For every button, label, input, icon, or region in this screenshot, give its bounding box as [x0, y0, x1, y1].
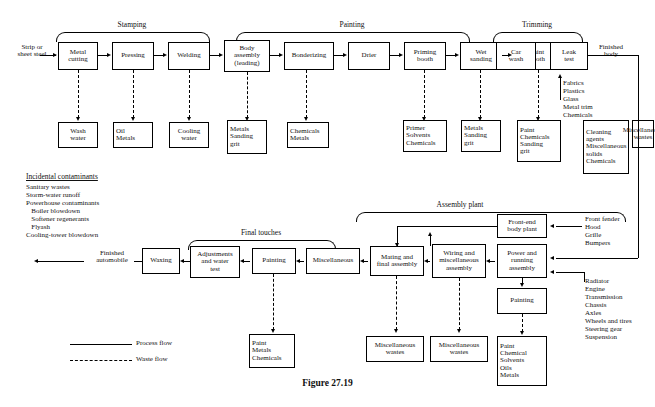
process-body-assembly[interactable]: Bodyassembly(leading) [224, 40, 270, 72]
arrow-misc-painting [296, 259, 300, 263]
waste-drop-6 [424, 70, 425, 118]
legend-waste-line [70, 360, 132, 361]
process-front-end-body-plant[interactable]: Front-endbody plant [497, 214, 547, 238]
waste-arrow-2 [131, 117, 135, 121]
legend-process-line [70, 344, 132, 345]
process-miscellaneous[interactable]: Miscellaneous [306, 248, 360, 274]
parts-front-end-label: Front fender Hood Grille Bumpers [585, 216, 620, 248]
legend-waste-label: Waste flow [136, 355, 168, 363]
arrow-weld-body [219, 53, 223, 57]
waste-drop-5 [306, 70, 307, 118]
arrow-painting-adjust [240, 259, 244, 263]
arrow-adjust-waxing [180, 259, 184, 263]
waste-arrow-5 [304, 117, 308, 121]
process-pressing[interactable]: Pressing [112, 42, 154, 70]
incidental-heading: Incidental contaminants [26, 172, 98, 181]
arrow-power-to-painting [520, 283, 524, 287]
waste-drop-b2 [396, 276, 397, 330]
process-waxing[interactable]: Waxing [142, 248, 180, 274]
arrow-finished-automobile [34, 259, 38, 263]
arrow-mating-up [428, 232, 432, 236]
waste-box-oil-metals[interactable]: OilMetals [113, 122, 153, 148]
process-metal-cutting[interactable]: Metalcutting [58, 42, 98, 70]
arrow-priming-wet [455, 53, 459, 57]
flow-wiring-up [430, 236, 431, 246]
arrow-bond-drier [343, 53, 347, 57]
process-wiring-misc-assembly[interactable]: Wiring andmiscellaneousassembly [432, 244, 486, 278]
waste-arrow-1 [76, 117, 80, 121]
bracket-painting [236, 32, 470, 42]
flow-parts-frontend [556, 226, 582, 227]
arrow-parts-power2 [550, 270, 554, 274]
bracket-stamping [56, 32, 210, 42]
process-painting-assembly[interactable]: Painting [497, 288, 547, 314]
waste-box-wash-water[interactable]: Washwater [58, 122, 98, 148]
process-power-running-assembly[interactable]: Power andrunningassembly [497, 244, 547, 278]
arrow-wet-paint [508, 53, 512, 57]
bracket-trimming-label: Trimming [487, 20, 587, 29]
process-bonderizing[interactable]: Bonderizing [284, 42, 334, 70]
arrow-wiring-mating [424, 259, 428, 263]
process-adjustments-water-test[interactable]: Adjustmentsand watertest [190, 246, 240, 278]
waste-drop-b4 [522, 314, 523, 332]
arrow-power-wiring [486, 259, 490, 263]
waste-drop-b1 [273, 274, 274, 330]
figure-canvas: Stamping Painting Trimming Strip or shee… [0, 0, 655, 407]
waste-drop-2 [133, 70, 134, 118]
bracket-stamping-label: Stamping [82, 20, 182, 29]
materials-feed-line [560, 78, 561, 100]
process-welding[interactable]: Welding [168, 42, 210, 70]
legend-process-label: Process flow [136, 339, 172, 347]
process-car-wash[interactable]: Carwash [496, 42, 536, 70]
waste-arrow-b2 [394, 329, 398, 333]
flow-parts-power [556, 258, 638, 259]
process-drier[interactable]: Drier [348, 42, 390, 70]
waste-arrow-3 [187, 117, 191, 121]
bracket-trimming [493, 32, 583, 42]
arrow-frontend-to-mating [395, 243, 399, 247]
arrow-parts-frontend [550, 224, 554, 228]
waste-arrow-b1 [271, 329, 275, 333]
flow-parts-power2 [556, 272, 584, 273]
parts-running-label: Radiator Engine Transmission Chassis Axl… [585, 278, 632, 342]
bracket-assembly-plant-label: Assembly plant [410, 200, 510, 209]
arrow-mating-misc [360, 259, 364, 263]
materials-paint-booth-label: Fabrics Plastics Glass Metal trim Chemic… [563, 80, 593, 120]
waste-box-metals-sanding-grit-2[interactable]: MetalsSandinggrit [461, 120, 501, 152]
waste-arrow-b3 [457, 329, 461, 333]
arrow-parts-power [550, 256, 554, 260]
waste-box-cooling-water[interactable]: Coolingwater [169, 122, 209, 148]
waste-box-paint-metals-chemicals[interactable]: PaintMetalsChemicals [249, 334, 295, 368]
figure-caption: Figure 27.19 [0, 378, 655, 388]
process-leak-test[interactable]: Leaktest [550, 42, 588, 70]
flow-waxing-out [134, 261, 142, 262]
arrow-cut-press [107, 53, 111, 57]
flow-finished-body-right [588, 55, 638, 56]
input-raw-material-label: Strip or sheet steel [8, 44, 56, 59]
process-mating-final-assembly[interactable]: Mating andfinal assembly [370, 246, 424, 276]
waste-box-metals-sanding-grit[interactable]: MetalsSandinggrit [227, 120, 267, 154]
flow-finished-body-down [638, 55, 639, 258]
bracket-final-touches-label: Final touches [211, 228, 311, 237]
finished-automobile-label: Finished automobile [86, 250, 138, 265]
waste-drop-b3 [459, 278, 460, 330]
arrow-body-bond [279, 53, 283, 57]
waste-box-paint-chemicals-sanding-grit[interactable]: PaintChemicalsSandinggrit [517, 120, 561, 162]
materials-feed-arrow [558, 74, 562, 78]
waste-box-miscellaneous-wastes-2[interactable]: Miscellaneouswastes [430, 336, 488, 362]
waste-box-miscellaneous-wastes-1[interactable]: Miscellaneouswastes [366, 336, 424, 362]
waste-drop-7 [480, 70, 481, 118]
finished-body-label: Finished body [588, 44, 634, 59]
waste-box-miscellaneous-wastes-top[interactable]: Miscellaneouswastes [632, 120, 654, 148]
incidental-list: Sanitary wastes Storm-water runoff Power… [26, 184, 99, 240]
waste-drop-8 [538, 70, 539, 118]
waste-box-chemicals-metals[interactable]: ChemicalsMetals [287, 122, 329, 148]
waste-arrow-b4 [520, 331, 524, 335]
flow-frontend-left [397, 226, 497, 227]
process-painting-final[interactable]: Painting [252, 248, 296, 274]
waste-drop-1 [78, 70, 79, 118]
waste-box-primer-solvents-chemicals[interactable]: PrimerSolventsChemicals [403, 120, 447, 152]
process-priming-booth[interactable]: Primingbooth [404, 42, 446, 70]
arrow-drier-priming [399, 53, 403, 57]
arrow-raw-to-metal-cutting [53, 53, 57, 57]
